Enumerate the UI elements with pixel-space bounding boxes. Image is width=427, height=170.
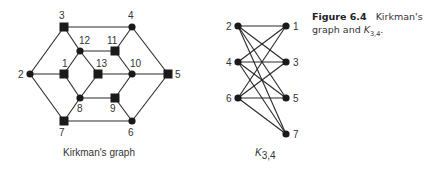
vertex-circle-6: [128, 117, 135, 124]
vertex-label: 7: [293, 129, 299, 140]
vertex-circle-2: [234, 22, 241, 29]
vertex-square-5: [164, 70, 173, 79]
vertex-label: 2: [18, 69, 24, 80]
k34-edges: [238, 26, 286, 134]
vertex-label: 11: [107, 35, 118, 46]
k34-graph: 2461357 K3,4: [226, 21, 299, 161]
vertex-label: 8: [77, 103, 83, 114]
caption-k-sub: 3,4: [370, 30, 380, 38]
vertex-label: 12: [79, 35, 91, 46]
vertex-label: 1: [62, 58, 68, 69]
vertex-label: 2: [226, 21, 232, 32]
graph-edge: [132, 74, 168, 121]
graph-edge: [30, 74, 64, 121]
vertex-label: 5: [293, 93, 299, 104]
caption-text-1: Kirkman's: [376, 11, 423, 22]
vertex-circle-4: [128, 23, 135, 30]
vertex-label: 3: [293, 57, 299, 68]
figure-label: Figure 6.4: [312, 11, 367, 22]
kirkman-graph: 12345678910111213 Kirkman's graph: [18, 10, 181, 158]
vertex-label: 4: [226, 57, 232, 68]
vertex-label: 7: [59, 127, 65, 138]
vertex-label: 9: [110, 103, 116, 114]
vertex-square-3: [60, 23, 69, 32]
caption-end: .: [380, 24, 383, 35]
k34-title: K3,4: [255, 147, 276, 161]
graph-edge: [238, 98, 286, 134]
vertex-label: 3: [59, 10, 65, 21]
caption-text-2: graph and: [312, 24, 364, 35]
vertex-circle-12: [76, 47, 83, 54]
vertex-square-9: [111, 94, 120, 103]
vertex-circle-8: [76, 94, 83, 101]
vertex-circle-10: [128, 70, 135, 77]
vertex-circle-6: [234, 94, 241, 101]
vertex-circle-3: [282, 58, 289, 65]
vertex-circle-7: [282, 130, 289, 137]
vertex-circle-1: [282, 22, 289, 29]
vertex-label: 5: [175, 69, 181, 80]
vertex-label: 13: [96, 58, 108, 69]
vertex-circle-4: [234, 58, 241, 65]
vertex-label: 4: [128, 10, 134, 21]
vertex-circle-5: [282, 94, 289, 101]
vertex-label: 10: [130, 58, 142, 69]
kirkman-graph-title: Kirkman's graph: [63, 147, 135, 158]
vertex-circle-2: [26, 70, 33, 77]
figure-caption: Figure 6.4 Kirkman's graph and K3,4.: [312, 10, 427, 41]
vertex-label: 6: [226, 93, 232, 104]
vertex-square-1: [60, 70, 69, 79]
vertex-square-7: [60, 117, 69, 126]
vertex-label: 6: [128, 127, 134, 138]
vertex-square-13: [94, 70, 103, 79]
graph-edge: [30, 27, 64, 74]
vertex-square-11: [111, 47, 120, 56]
vertex-label: 1: [293, 21, 299, 32]
